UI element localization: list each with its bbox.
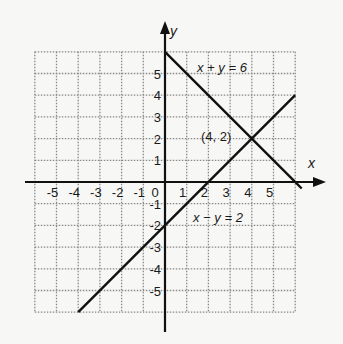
y-tick-label: 5 [154,67,161,82]
intersection-label: (4, 2) [201,129,231,144]
x-tick-label: 4 [244,185,251,200]
x-tick-label: 3 [222,185,229,200]
y-tick-label: -3 [149,240,161,255]
x-tick-label: -2 [112,185,124,200]
x-tick-label: -4 [68,185,80,200]
y-tick-label: 1 [154,153,161,168]
y-axis-label: y [169,23,178,39]
x-axis-arrow-icon [313,177,326,187]
equation-label-sum: x + y = 6 [196,60,248,75]
x-axis-label: x [307,155,316,171]
y-tick-label: -4 [149,262,161,277]
x-tick-label: 5 [266,185,273,200]
y-tick-label: -5 [149,284,161,299]
coordinate-plane: -5-4-3-2-101234554321-1-2-3-4-5 x y x + … [0,0,343,344]
x-tick-label: 1 [179,185,186,200]
y-tick-label: 4 [154,88,161,103]
x-tick-label: -3 [90,185,102,200]
equation-label-difference: x − y = 2 [192,210,244,225]
y-tick-label: 3 [154,110,161,125]
y-tick-label: 2 [154,132,161,147]
x-tick-label: -5 [47,185,59,200]
x-tick-label: -1 [134,185,146,200]
y-axis-arrow-icon [160,21,170,34]
y-tick-label: -1 [149,197,161,212]
axes [25,21,326,332]
